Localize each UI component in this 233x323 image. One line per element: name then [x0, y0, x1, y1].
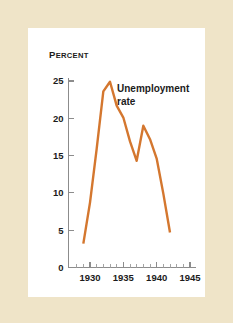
- y-tick-label-5: 5: [58, 225, 64, 236]
- unemployment-rate-chart: 0510152025 1930193519401945 PERCENT Unem…: [0, 0, 233, 323]
- x-major-tick-marks: [90, 262, 190, 268]
- y-axis-title: PERCENT: [49, 49, 89, 60]
- y-tick-label-10: 10: [53, 187, 64, 198]
- x-tick-label-1935: 1935: [113, 272, 135, 283]
- x-tick-label-1940: 1940: [146, 272, 167, 283]
- x-tick-label-1945: 1945: [179, 272, 201, 283]
- series-annotation-line1: Unemployment: [117, 83, 190, 94]
- y-tick-labels: 0510152025: [53, 75, 64, 273]
- series-annotation-line2: rate: [117, 96, 136, 107]
- y-tick-marks: [69, 81, 74, 268]
- y-tick-label-0: 0: [58, 262, 63, 273]
- y-tick-label-20: 20: [53, 113, 64, 124]
- x-tick-labels: 1930193519401945: [79, 272, 201, 283]
- figure-frame: 0510152025 1930193519401945 PERCENT Unem…: [0, 0, 233, 323]
- y-tick-label-15: 15: [53, 150, 64, 161]
- x-tick-label-1930: 1930: [79, 272, 100, 283]
- y-tick-label-25: 25: [53, 75, 64, 86]
